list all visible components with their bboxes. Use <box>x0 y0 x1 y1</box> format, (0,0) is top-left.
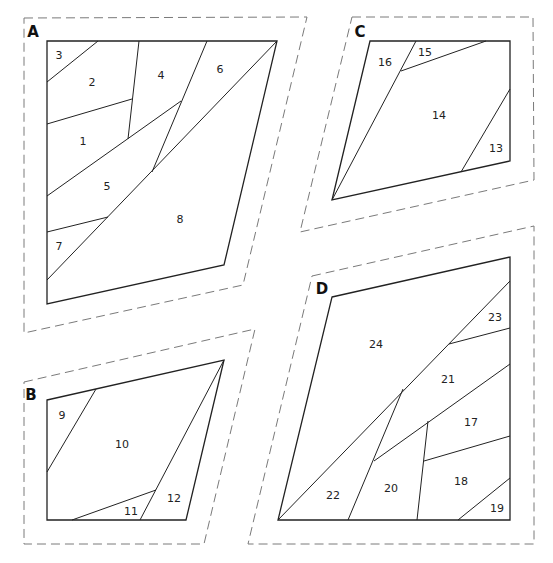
piece-number: 22 <box>326 489 340 502</box>
piece-number: 1 <box>80 135 87 148</box>
piece-number: 8 <box>177 213 184 226</box>
piece-number: 20 <box>384 482 398 495</box>
section-a: 12345678A <box>24 17 307 333</box>
piece-number: 3 <box>56 49 63 62</box>
piece-number: 12 <box>167 492 181 505</box>
section-label: A <box>27 23 39 41</box>
piece-number: 11 <box>124 505 138 518</box>
section-c: 13141516C <box>300 17 534 232</box>
piece-number: 5 <box>104 180 111 193</box>
piecing-diagram: 12345678A9101112B13141516C17181920212223… <box>0 0 553 563</box>
piece-number: 4 <box>158 69 165 82</box>
piece-number: 17 <box>464 416 478 429</box>
piece-number: 13 <box>489 142 503 155</box>
piece-number: 7 <box>56 240 63 253</box>
piece-number: 21 <box>441 373 455 386</box>
piece-number: 2 <box>89 76 96 89</box>
section-label: C <box>354 23 365 41</box>
piece-number: 15 <box>418 46 432 59</box>
piece-number: 16 <box>378 56 392 69</box>
piece-number: 18 <box>454 475 468 488</box>
sections-layer: 12345678A9101112B13141516C17181920212223… <box>24 17 534 544</box>
section-label: B <box>25 386 36 404</box>
piece-number: 9 <box>59 409 66 422</box>
section-outline <box>332 41 510 200</box>
piece-number: 14 <box>432 109 446 122</box>
piece-number: 24 <box>369 338 383 351</box>
piece-number: 10 <box>115 438 129 451</box>
section-d: 1718192021222324D <box>248 226 534 544</box>
piece-number: 23 <box>488 311 502 324</box>
piece-number: 6 <box>217 63 224 76</box>
piece-number: 19 <box>490 502 504 515</box>
section-label: D <box>316 280 328 298</box>
section-outline <box>47 360 224 520</box>
section-b: 9101112B <box>24 329 255 544</box>
